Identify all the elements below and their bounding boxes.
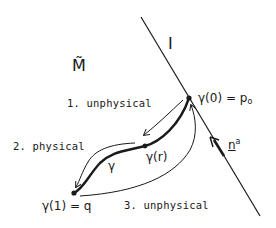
- boundary-line: [141, 17, 260, 216]
- point-gamma-r: [143, 144, 148, 149]
- manifold-label: M̃: [72, 58, 86, 74]
- point-p0: [186, 95, 191, 100]
- path-3-label: 3. unphysical: [124, 200, 209, 211]
- curve-gamma-label: γ: [108, 160, 115, 172]
- diagram-svg: [0, 0, 276, 228]
- point-q: [71, 190, 76, 195]
- diagram-canvas: M̃ I γ(0) = po γ(r) γ(1) = q γ na 1. unp…: [0, 0, 276, 228]
- point-gamma-r-label: γ(r): [146, 151, 167, 163]
- boundary-label: I: [168, 36, 173, 52]
- path-2-label: 2. physical: [13, 141, 85, 152]
- curve-gamma: [74, 98, 189, 193]
- normal-vector-arrow: [214, 140, 224, 156]
- point-q-label: γ(1) = q: [42, 200, 91, 212]
- path-1-label: 1. unphysical: [67, 98, 152, 109]
- normal-label: na: [228, 138, 241, 151]
- point-p0-label: γ(0) = po: [198, 92, 252, 106]
